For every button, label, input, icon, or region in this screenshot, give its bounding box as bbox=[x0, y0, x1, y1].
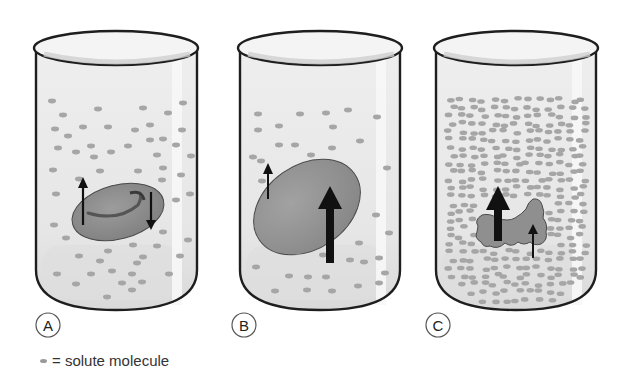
legend-text: = solute molecule bbox=[52, 352, 169, 369]
legend: = solute molecule bbox=[40, 352, 169, 369]
beaker-c bbox=[434, 31, 598, 310]
svg-text:C: C bbox=[433, 317, 444, 334]
label-a: A bbox=[36, 313, 60, 337]
label-c: C bbox=[426, 313, 450, 337]
svg-text:A: A bbox=[43, 317, 53, 334]
osmosis-diagram: A B C bbox=[0, 0, 622, 375]
label-b: B bbox=[232, 313, 256, 337]
svg-text:B: B bbox=[239, 317, 249, 334]
beaker-b bbox=[235, 31, 402, 310]
solute-molecule-icon bbox=[40, 359, 47, 363]
beaker-a bbox=[34, 31, 198, 310]
